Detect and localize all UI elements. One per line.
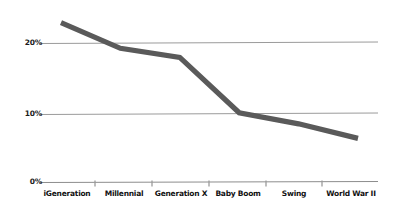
- line-chart: 20% 10% 0% iGeneration Millennial Genera…: [0, 0, 402, 215]
- y-axis-tick-label-20: 20%: [12, 38, 42, 47]
- data-line-series-share: [61, 23, 358, 139]
- x-axis-label-world-war-ii: World War II: [326, 189, 375, 199]
- x-axis-label-swing: Swing: [282, 189, 306, 199]
- x-axis-label-millennial: Millennial: [105, 189, 144, 199]
- x-axis-label-baby-boom: Baby Boom: [215, 189, 260, 199]
- plot-area: [0, 0, 402, 215]
- x-axis-label-generation-x: Generation X: [155, 189, 207, 199]
- x-axis-label-igeneration: iGeneration: [44, 189, 91, 199]
- y-axis-tick-label-0: 0%: [12, 177, 42, 186]
- gridline-10: [40, 113, 378, 115]
- y-axis-tick-label-10: 10%: [12, 109, 42, 118]
- gridline-20: [40, 42, 378, 44]
